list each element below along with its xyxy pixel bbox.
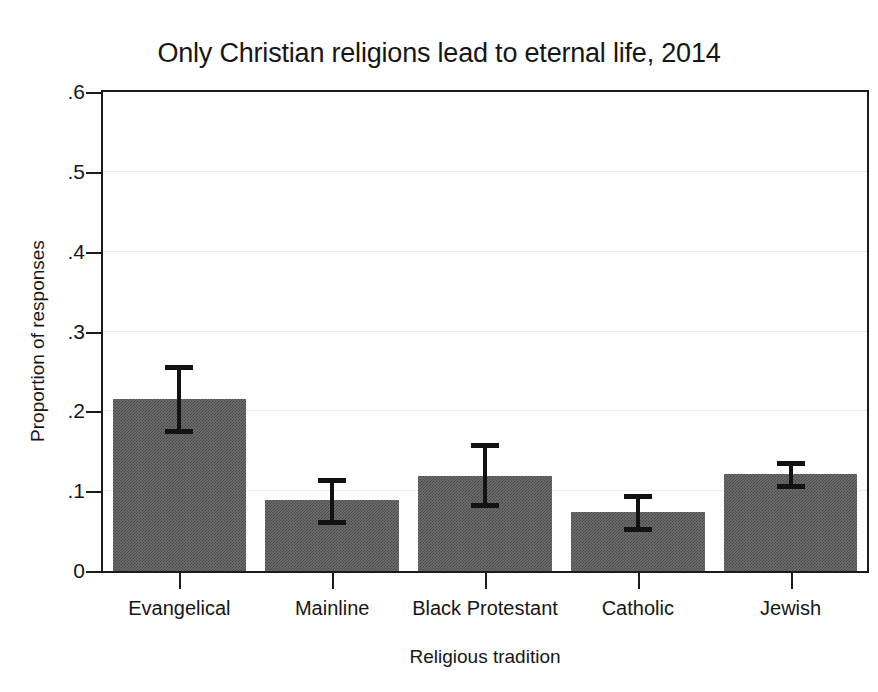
x-axis-title: Religious tradition <box>101 646 869 668</box>
y-axis-tick-label: .1 <box>15 479 85 503</box>
error-bar-cap-lower <box>624 527 652 532</box>
y-axis-tick-label: .4 <box>15 240 85 264</box>
y-axis-tick-label: .5 <box>15 160 85 184</box>
error-bar-cap-upper <box>471 443 499 448</box>
x-axis-tick <box>332 573 334 589</box>
error-bar-stem <box>177 367 181 432</box>
x-axis-tick <box>791 573 793 589</box>
error-bar-cap-lower <box>318 520 346 525</box>
error-bar-stem <box>636 496 640 530</box>
x-axis-tick-label: Evangelical <box>128 597 230 620</box>
gridline <box>103 251 867 252</box>
x-axis-tick <box>485 573 487 589</box>
y-axis-tick-label: .6 <box>15 80 85 104</box>
y-axis-tick <box>86 332 101 334</box>
y-axis-tick <box>86 491 101 493</box>
x-axis-tick <box>638 573 640 589</box>
x-axis-tick-label: Mainline <box>295 597 369 620</box>
error-bar-cap-upper <box>624 494 652 499</box>
error-bar-cap-upper <box>318 478 346 483</box>
gridline <box>103 331 867 332</box>
error-bar-cap-lower <box>777 484 805 489</box>
error-bar-cap-upper <box>165 365 193 370</box>
page-title: Only Christian religions lead to eternal… <box>0 38 878 69</box>
error-bar-stem <box>483 445 487 506</box>
error-bar-cap-upper <box>777 461 805 466</box>
y-axis-tick-label: 0 <box>15 559 85 583</box>
error-bar-cap-lower <box>165 429 193 434</box>
error-bar-stem <box>330 480 334 523</box>
y-axis-tick-label: .3 <box>15 320 85 344</box>
x-axis-tick-label: Catholic <box>602 597 674 620</box>
x-axis-tick-label: Jewish <box>760 597 821 620</box>
y-axis-tick <box>86 252 101 254</box>
x-axis-tick-label: Black Protestant <box>412 597 558 620</box>
y-axis-tick-label: .2 <box>15 399 85 423</box>
y-axis-tick <box>86 571 101 573</box>
gridline <box>103 171 867 172</box>
y-axis-tick <box>86 92 101 94</box>
error-bar-cap-lower <box>471 503 499 508</box>
plot-area <box>101 90 869 573</box>
bar-chart-figure: Only Christian religions lead to eternal… <box>0 0 878 692</box>
x-axis-tick <box>179 573 181 589</box>
y-axis-tick <box>86 411 101 413</box>
y-axis-tick <box>86 172 101 174</box>
